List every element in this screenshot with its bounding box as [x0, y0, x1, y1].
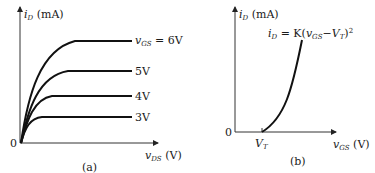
panel-a-y-axis-label: iD (mA) [24, 9, 64, 22]
panel-a-origin-label: 0 [10, 138, 17, 149]
panel-b-origin-label: 0 [225, 127, 232, 138]
transfer-equation: iD = K(vGS−VT)2 [268, 28, 353, 41]
curve-3v [21, 117, 132, 143]
curve-4v [21, 96, 132, 143]
curve-5v [21, 71, 132, 143]
panel-b-caption: (b) [290, 156, 306, 167]
panel-a-curves [21, 41, 132, 143]
curve-label-6v: vGS = 6V [135, 35, 183, 48]
curve-label-3v: 3V [135, 112, 150, 123]
diagram-canvas [0, 0, 375, 173]
curve-label-4v: 4V [135, 91, 150, 102]
transfer-curve [262, 40, 302, 132]
panel-b-y-axis-label: iD (mA) [239, 9, 279, 22]
panel-a-x-axis-label: vDS (V) [145, 150, 182, 163]
panel-b-axes [235, 7, 336, 132]
panel-a-caption: (a) [82, 162, 97, 173]
curve-label-5v: 5V [135, 66, 150, 77]
threshold-voltage-label: VT [255, 138, 268, 151]
panel-b-x-axis-label: vGS (V) [333, 139, 370, 152]
